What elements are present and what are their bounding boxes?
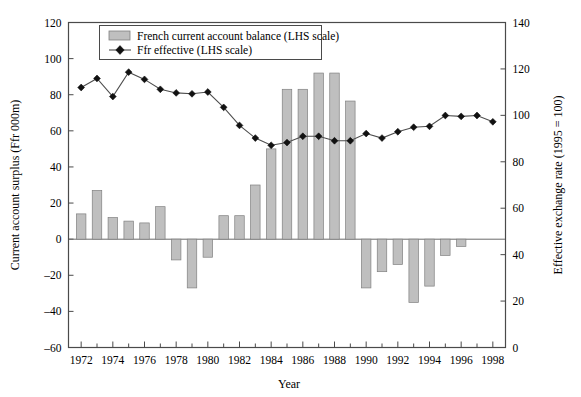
bar <box>219 216 229 239</box>
x-tick-label: 1972 <box>70 354 93 366</box>
bar <box>425 239 435 286</box>
data-point-marker <box>78 84 85 91</box>
bar <box>266 149 276 239</box>
y-tick-label-right: 60 <box>513 202 525 214</box>
data-point-marker <box>426 123 433 130</box>
y-tick-label-left: 120 <box>44 17 62 29</box>
y-tick-label-left: 60 <box>50 125 62 137</box>
y-tick-label-left: –40 <box>43 305 62 317</box>
x-tick-label: 1980 <box>196 354 219 366</box>
y-tick-label-right: 0 <box>513 342 519 354</box>
data-point-marker <box>363 130 370 137</box>
bar <box>187 239 197 288</box>
data-point-marker <box>489 118 496 125</box>
y-tick-label-left: 80 <box>50 89 62 101</box>
y-tick-label-left: 0 <box>56 233 62 245</box>
x-tick-label: 1992 <box>386 354 409 366</box>
y-tick-label-left: –20 <box>43 269 62 281</box>
y-axis-left-title: Current account surplus (Ffr 000m) <box>8 100 22 271</box>
bar <box>235 216 245 239</box>
data-point-marker <box>173 90 180 97</box>
bar <box>156 207 166 240</box>
bar <box>298 89 308 239</box>
data-point-marker <box>474 112 481 119</box>
x-tick-label: 1974 <box>101 354 124 366</box>
bar <box>393 239 403 264</box>
x-tick-label: 1998 <box>481 354 504 366</box>
y-tick-label-right: 100 <box>513 109 531 121</box>
data-point-marker <box>125 69 132 76</box>
bar <box>124 221 133 239</box>
y-tick-label-right: 40 <box>513 249 525 261</box>
bar <box>330 73 340 239</box>
bar <box>251 185 260 239</box>
y-tick-label-left: –60 <box>43 342 62 354</box>
bar <box>456 239 466 246</box>
chart-legend: French current account balance (LHS scal… <box>100 26 340 60</box>
x-tick-label: 1986 <box>291 354 314 366</box>
data-point-marker <box>157 86 164 93</box>
bar <box>92 190 102 239</box>
x-tick-label: 1984 <box>260 354 283 366</box>
bar <box>282 89 292 239</box>
y-tick-label-right: 80 <box>513 156 525 168</box>
y-axis-right-title: Effective exchange rate (1995 = 100) <box>551 96 565 275</box>
bar <box>441 239 451 255</box>
x-tick-label: 1996 <box>450 354 473 366</box>
x-tick-label: 1978 <box>165 354 188 366</box>
x-tick-label: 1982 <box>228 354 251 366</box>
legend-label-line: Ffr effective (LHS scale) <box>137 44 252 57</box>
data-point-marker <box>410 124 417 131</box>
bar <box>108 218 118 240</box>
data-point-marker <box>379 135 386 142</box>
bar <box>409 239 419 302</box>
bar <box>377 239 387 272</box>
y-tick-label-left: 40 <box>50 161 62 173</box>
bar <box>76 214 86 239</box>
data-point-marker <box>268 142 275 149</box>
y-tick-label-right: 120 <box>513 63 531 75</box>
y-tick-label-right: 140 <box>513 17 531 29</box>
bar <box>171 239 181 260</box>
chart-figure: 120100806040200–20–40–60 140120100806040… <box>0 0 581 397</box>
data-point-marker <box>141 76 148 83</box>
x-tick-label: 1976 <box>133 354 156 366</box>
data-point-marker <box>394 128 401 135</box>
bar <box>346 101 356 239</box>
data-point-marker <box>458 113 465 120</box>
bar <box>361 239 371 288</box>
x-axis-title: Year <box>278 377 300 391</box>
y-tick-label-left: 100 <box>44 53 62 65</box>
x-tick-label: 1988 <box>323 354 346 366</box>
bar-series <box>76 73 466 302</box>
bar <box>140 223 150 239</box>
data-point-marker <box>442 112 449 119</box>
data-point-marker <box>189 90 196 97</box>
bar <box>203 239 213 257</box>
legend-swatch-bar <box>109 31 130 40</box>
y-tick-label-left: 20 <box>50 197 62 209</box>
x-axis-ticks: 1972197419761978198019821984198619881990… <box>70 342 505 366</box>
x-tick-label: 1994 <box>418 354 441 366</box>
bar <box>314 73 324 239</box>
chart-svg: 120100806040200–20–40–60 140120100806040… <box>0 0 581 397</box>
y-tick-label-right: 20 <box>513 295 525 307</box>
x-tick-label: 1990 <box>355 354 378 366</box>
legend-label-bar: French current account balance (LHS scal… <box>137 30 339 43</box>
